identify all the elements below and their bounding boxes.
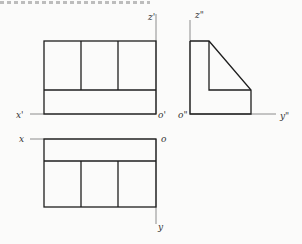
front-view	[44, 41, 156, 114]
side-view	[190, 41, 251, 114]
label-z-double: z"	[194, 10, 204, 20]
top-view	[44, 139, 156, 207]
label-z-prime: z'	[147, 12, 155, 22]
label-x: x	[19, 134, 24, 144]
label-o-double: o"	[178, 110, 188, 120]
label-o-prime: o'	[158, 110, 166, 120]
side-view-outline	[190, 41, 251, 114]
projection-diagram: z' z" x' o' o" y" x o y	[0, 0, 302, 244]
front-view-outline	[44, 41, 156, 114]
label-x-prime: x'	[16, 110, 24, 120]
drawing-canvas: z' z" x' o' o" y" x o y	[0, 0, 302, 244]
label-y: y	[157, 222, 164, 232]
label-o: o	[161, 134, 167, 144]
label-y-double: y"	[279, 111, 289, 121]
top-view-outline	[44, 139, 156, 207]
